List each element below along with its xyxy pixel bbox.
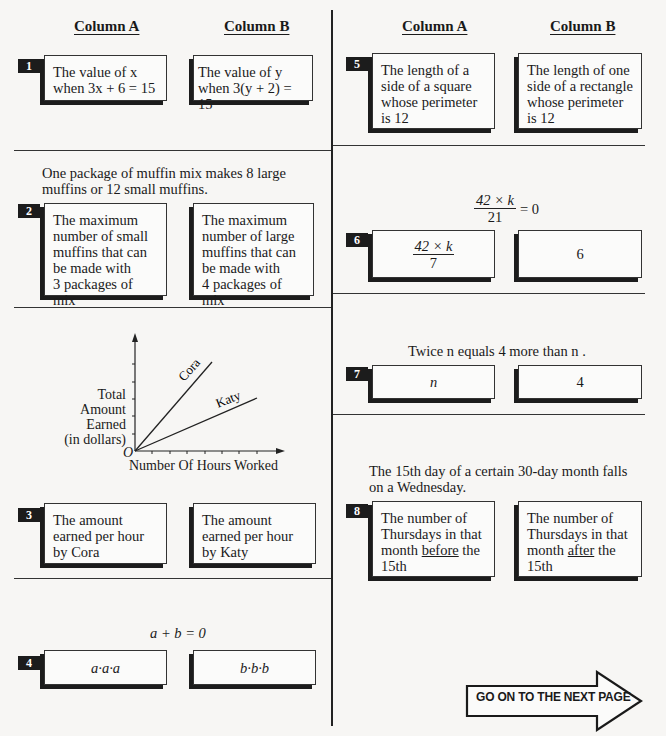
q6-a-denominator: 7	[430, 255, 437, 271]
katy-label: Katy	[214, 387, 244, 411]
q7-column-a-box[interactable]: n	[372, 365, 495, 399]
q8-column-b-box[interactable]: The number of Thursdays in that month af…	[518, 501, 642, 577]
question-number-7: 7	[346, 367, 368, 381]
question-number-5: 5	[346, 57, 368, 71]
question-number-1: 1	[18, 59, 40, 73]
q5-column-a-box[interactable]: The length of a side of a square whose p…	[372, 53, 495, 129]
q6-a-numerator: 42 × k	[413, 238, 455, 255]
question-number-3: 3	[18, 508, 40, 522]
column-b-header-right: Column B	[550, 18, 615, 35]
q3-a-line2: earned per hour	[53, 528, 158, 544]
katy-line	[135, 398, 257, 451]
q4-stem: a + b = 0	[150, 625, 206, 641]
q8-b-line2: Thursdays in that	[527, 526, 633, 542]
q8-a-line3: month before the	[381, 542, 486, 558]
q2-stem-line1: One package of muffin mix makes 8 large	[42, 165, 286, 181]
q3-earnings-graph: Cora Katy	[118, 330, 288, 460]
q1-a-line2: when 3x + 6 = 15	[53, 80, 158, 96]
q3-x-axis-label: Number Of Hours Worked	[129, 458, 278, 474]
q3-a-line1: The amount	[53, 512, 158, 528]
question-number-6: 6	[346, 233, 368, 247]
q3-y-axis-label: Total Amount Earned (in dollars)	[62, 387, 126, 447]
column-divider	[331, 10, 333, 726]
q2-b-line2: number of large	[202, 228, 305, 244]
question-number-2: 2	[18, 204, 40, 218]
q3-b-line1: The amount	[202, 512, 307, 528]
column-a-header-left: Column A	[74, 18, 139, 35]
q7-stem: Twice n equals 4 more than n .	[408, 343, 586, 359]
q6-stem-rhs: = 0	[520, 201, 539, 217]
q8-b-line3: month after the	[527, 542, 633, 558]
q8-b-emphasis-after: after	[568, 542, 595, 558]
separator-5-6	[333, 145, 645, 146]
q2-b-line3: muffins that can	[202, 244, 305, 260]
q2-a-line2: number of small	[53, 228, 158, 244]
q6-stem-numerator: 42 × k	[474, 192, 516, 209]
q2-b-line1: The maximum	[202, 212, 305, 228]
q6-stem-denominator: 21	[488, 209, 503, 225]
y-label-line3: Earned	[62, 417, 126, 432]
column-b-header-left: Column B	[224, 18, 289, 35]
q8-column-a-box[interactable]: The number of Thursdays in that month be…	[372, 501, 495, 577]
q7-column-b-box[interactable]: 4	[518, 365, 642, 399]
y-label-line1: Total	[62, 387, 126, 402]
q2-a-line5: 3 packages of mix	[53, 276, 158, 308]
q8-b-line1: The number of	[527, 510, 633, 526]
separator-3-4	[14, 578, 331, 579]
q8-stem-line1: The 15th day of a certain 30-day month f…	[369, 463, 628, 479]
q2-b-line4: be made with	[202, 260, 305, 276]
q8-a-line4: 15th	[381, 558, 486, 574]
separator-6-7	[333, 293, 645, 294]
q5-b-line1: The length of one	[527, 62, 633, 78]
y-label-line2: Amount	[62, 402, 126, 417]
q1-column-a-box[interactable]: The value of x when 3x + 6 = 15	[44, 55, 167, 101]
cora-line	[135, 362, 212, 451]
q8-a-emphasis-before: before	[422, 542, 459, 558]
q3-column-a-box[interactable]: The amount earned per hour by Cora	[44, 503, 167, 564]
q1-a-line1: The value of x	[53, 64, 158, 80]
q3-b-line3: by Katy	[202, 544, 307, 560]
q3-b-line2: earned per hour	[202, 528, 307, 544]
q5-a-line2: side of a square	[381, 78, 486, 94]
next-page-button[interactable]: GO ON TO THE NEXT PAGE	[476, 690, 631, 704]
q6-column-a-box[interactable]: 42 × k7	[372, 230, 495, 278]
q8-a-line1: The number of	[381, 510, 486, 526]
q5-column-b-box[interactable]: The length of one side of a rectangle wh…	[518, 53, 642, 129]
q6-column-b-box[interactable]: 6	[518, 230, 642, 278]
q6-stem: 42 × k21 = 0	[474, 192, 539, 225]
q5-b-line3: whose perimeter	[527, 94, 633, 110]
q3-a-line3: by Cora	[53, 544, 158, 560]
q2-stem-line2: muffins or 12 small muffins.	[42, 181, 286, 197]
q2-column-b-box[interactable]: The maximum number of large muffins that…	[193, 203, 314, 296]
q5-a-line4: is 12	[381, 110, 486, 126]
q5-b-line2: side of a rectangle	[527, 78, 633, 94]
q8-stem-line2: on a Wednesday.	[369, 479, 628, 495]
q4-column-a-box[interactable]: a·a·a	[44, 650, 167, 685]
y-label-line4: (in dollars)	[62, 432, 126, 447]
separator-7-8	[333, 414, 645, 415]
question-number-8: 8	[346, 504, 368, 518]
q1-b-line2: when 3(y + 2) = 15	[198, 80, 304, 112]
q5-b-line4: is 12	[527, 110, 633, 126]
q3-column-b-box[interactable]: The amount earned per hour by Katy	[193, 503, 316, 564]
separator-2-3	[14, 307, 331, 308]
question-number-4: 4	[18, 656, 40, 670]
q8-b-line4: 15th	[527, 558, 633, 574]
cora-label: Cora	[175, 355, 203, 384]
q8-stem: The 15th day of a certain 30-day month f…	[369, 463, 628, 495]
q8-a-line2: Thursdays in that	[381, 526, 486, 542]
separator-1-2	[14, 150, 331, 151]
q1-b-line1: The value of y	[198, 64, 304, 80]
q2-b-line5: 4 packages of mix	[202, 276, 305, 308]
q2-a-line3: muffins that can	[53, 244, 158, 260]
q1-column-b-box[interactable]: The value of y when 3(y + 2) = 15	[193, 55, 313, 101]
q2-stem: One package of muffin mix makes 8 large …	[42, 165, 286, 197]
q5-a-line1: The length of a	[381, 62, 486, 78]
q2-a-line1: The maximum	[53, 212, 158, 228]
column-a-header-right: Column A	[402, 18, 467, 35]
q5-a-line3: whose perimeter	[381, 94, 486, 110]
q2-column-a-box[interactable]: The maximum number of small muffins that…	[44, 203, 167, 296]
q2-a-line4: be made with	[53, 260, 158, 276]
q4-column-b-box[interactable]: b·b·b	[193, 650, 316, 685]
